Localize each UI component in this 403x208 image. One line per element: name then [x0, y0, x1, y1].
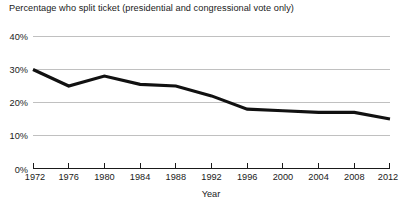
- x-axis-title: Year: [202, 189, 221, 199]
- x-tick-label-1972: 1972: [25, 172, 45, 182]
- x-tick-label-1988: 1988: [166, 172, 186, 182]
- line-chart-plot: 40% 30% 20% 10% 0% 1972 1976: [0, 0, 403, 208]
- chart-figure: Percentage who split ticket (presidentia…: [0, 0, 403, 208]
- x-tick-label-2008: 2008: [344, 172, 364, 182]
- y-axis-tick-labels: 40% 30% 20% 10% 0%: [10, 32, 28, 175]
- x-tick-label-2004: 2004: [308, 172, 328, 182]
- gridlines: [33, 37, 390, 136]
- y-tick-label-30: 30%: [10, 65, 28, 75]
- x-axis-tick-labels: 1972 1976 1980 1984 1988 1992 1996 2000 …: [25, 172, 398, 182]
- x-tick-label-1976: 1976: [58, 172, 78, 182]
- x-axis-tick-marks: [69, 163, 355, 169]
- x-tick-label-1992: 1992: [201, 172, 221, 182]
- split-ticket-trend-line: [33, 70, 390, 120]
- x-tick-label-2000: 2000: [273, 172, 293, 182]
- x-tick-label-1996: 1996: [237, 172, 257, 182]
- x-tick-label-2012: 2012: [378, 172, 398, 182]
- y-tick-label-20: 20%: [10, 98, 28, 108]
- x-tick-label-1980: 1980: [94, 172, 114, 182]
- x-tick-label-1984: 1984: [130, 172, 150, 182]
- y-tick-label-40: 40%: [10, 32, 28, 42]
- y-tick-label-10: 10%: [10, 131, 28, 141]
